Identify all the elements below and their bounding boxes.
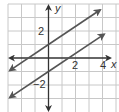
- upper-line: [49, 10, 101, 45]
- x-tick-4: 4: [100, 59, 106, 71]
- x-tick-2: 2: [72, 59, 78, 71]
- axes: [10, 6, 110, 110]
- graph-svg: y x 2 4 2 −2: [0, 0, 119, 112]
- x-axis-label: x: [110, 58, 117, 70]
- y-tick-neg2: −2: [33, 78, 46, 90]
- plotted-lines: [10, 10, 104, 97]
- y-tick-2: 2: [38, 25, 44, 37]
- coordinate-graph: y x 2 4 2 −2: [0, 0, 119, 112]
